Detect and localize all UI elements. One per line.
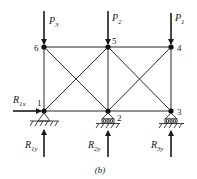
reaction-label-r1y: R1y <box>24 139 39 153</box>
reaction-label-r3y: R3y <box>150 139 165 153</box>
load-label-p1: P1 <box>174 12 185 26</box>
joint-6 <box>41 44 46 49</box>
pin-support-1 <box>30 113 59 126</box>
joint-5 <box>105 44 110 49</box>
reaction-label-r2y: R2y <box>87 139 102 153</box>
figure-caption: (b) <box>95 165 106 175</box>
node-label-5: 5 <box>112 36 117 46</box>
truss-members <box>44 47 171 111</box>
reaction-label-r1x: R1x <box>12 94 27 108</box>
node-label-3: 3 <box>177 107 182 117</box>
node-label-1: 1 <box>37 98 42 108</box>
node-label-2: 2 <box>117 113 122 123</box>
load-label-p2: P2 <box>111 12 122 26</box>
joint-4 <box>168 44 173 49</box>
node-label-4: 4 <box>177 43 182 53</box>
truss-diagram: P3 P2 P1 6 5 4 1 2 3 <box>0 0 197 179</box>
node-label-6: 6 <box>34 43 39 53</box>
applied-loads <box>44 11 171 44</box>
load-label-p3: P3 <box>48 15 59 29</box>
